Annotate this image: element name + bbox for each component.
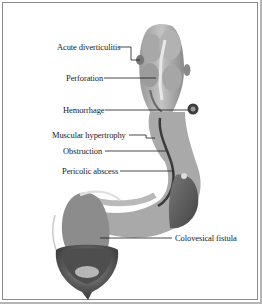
label-muscular-hypertrophy: Muscular hypertrophy [52, 130, 126, 140]
label-acute-diverticulitis: Acute diverticulitis [57, 42, 120, 52]
label-obstruction: Obstruction [63, 146, 102, 156]
label-colovesical-fistula: Colovesical fistula [175, 233, 237, 243]
descending-colon [136, 24, 199, 118]
label-pericolic-abscess: Pericolic abscess [62, 166, 118, 176]
label-hemorrhage: Hemorrhage [63, 105, 104, 115]
bladder [56, 245, 118, 300]
colon-illustration [0, 0, 262, 304]
label-perforation: Perforation [66, 73, 103, 83]
